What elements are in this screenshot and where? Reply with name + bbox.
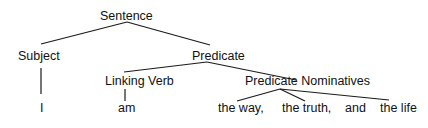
edge-sentence-predicate [127,22,210,45]
node-linking-verb: Linking Verb [105,74,174,88]
node-subject: Subject [18,49,60,63]
word-the-truth: the truth, [282,101,331,115]
edge-nominatives-the-way [237,89,280,101]
word-and: and [345,101,366,115]
word-i: I [40,101,43,115]
word-the-life: the life [380,101,417,115]
edge-sentence-subject [41,22,127,44]
word-am: am [118,101,135,115]
node-sentence: Sentence [100,9,153,23]
node-predicate: Predicate [192,49,245,63]
node-predicate-nominatives: Predicate Nominatives [245,74,370,88]
word-the-way: the way, [218,101,264,115]
sentence-tree-diagram: Sentence Subject Predicate Linking Verb … [0,0,428,128]
edge-nominatives-the-life [280,89,389,100]
edge-predicate-linking-verb [124,62,207,72]
